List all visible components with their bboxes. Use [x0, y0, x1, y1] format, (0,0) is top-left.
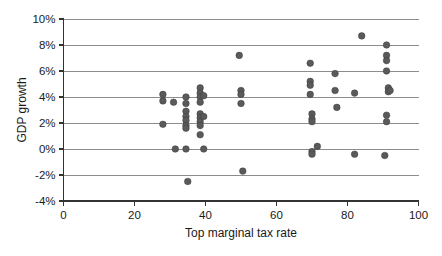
data-point: [351, 90, 358, 97]
data-point: [197, 122, 204, 129]
data-point: [381, 152, 388, 159]
data-points-group: [160, 33, 394, 185]
data-point: [334, 104, 341, 111]
data-point: [238, 91, 245, 98]
x-tick-label: 80: [341, 209, 354, 221]
data-point: [197, 131, 204, 138]
data-point: [200, 146, 207, 153]
data-point: [387, 87, 394, 94]
x-tick-label: 20: [128, 209, 141, 221]
y-axis-title: GDP growth: [15, 77, 29, 142]
data-point: [236, 52, 243, 59]
data-point: [238, 100, 245, 107]
data-point: [332, 87, 339, 94]
x-tick-label: 60: [270, 209, 283, 221]
data-point: [239, 168, 246, 175]
data-point: [160, 98, 167, 105]
data-point: [170, 99, 177, 106]
y-tick-label: -4%: [35, 195, 55, 207]
data-point: [358, 33, 365, 40]
data-point: [383, 68, 390, 75]
data-point: [307, 60, 314, 67]
y-tick-label: 10%: [32, 13, 55, 25]
data-point: [197, 99, 204, 106]
data-point: [351, 151, 358, 158]
data-point: [383, 118, 390, 125]
data-point: [183, 146, 190, 153]
y-axis-tick-labels: -4%-2%0%2%4%6%8%10%: [32, 13, 55, 207]
data-point: [172, 146, 179, 153]
data-point: [200, 113, 207, 120]
data-point: [383, 57, 390, 64]
data-point: [183, 125, 190, 132]
y-axis-ticks: [59, 19, 64, 201]
scatter-chart: -4%-2%0%2%4%6%8%10% 020406080100 GDP gro…: [0, 0, 442, 256]
data-point: [307, 82, 314, 89]
data-point: [383, 112, 390, 119]
data-point: [309, 151, 316, 158]
x-axis-title: Top marginal tax rate: [185, 226, 297, 240]
data-point: [184, 178, 191, 185]
data-point: [307, 91, 314, 98]
data-point: [309, 118, 316, 125]
x-tick-label: 0: [60, 209, 66, 221]
y-tick-label: 0%: [39, 143, 56, 155]
x-axis-ticks: [64, 201, 419, 206]
data-point: [160, 91, 167, 98]
x-axis-tick-labels: 020406080100: [60, 209, 428, 221]
data-point: [183, 94, 190, 101]
x-tick-label: 40: [199, 209, 212, 221]
data-point: [183, 100, 190, 107]
y-tick-label: 8%: [39, 39, 56, 51]
data-point: [314, 143, 321, 150]
data-point: [383, 42, 390, 49]
data-point: [160, 121, 167, 128]
y-tick-label: -2%: [35, 169, 55, 181]
y-tick-label: 6%: [39, 65, 56, 77]
y-tick-label: 4%: [39, 91, 56, 103]
x-tick-label: 100: [409, 209, 428, 221]
chart-svg: -4%-2%0%2%4%6%8%10% 020406080100 GDP gro…: [0, 0, 442, 256]
data-point: [200, 92, 207, 99]
data-point: [332, 70, 339, 77]
y-tick-label: 2%: [39, 117, 56, 129]
